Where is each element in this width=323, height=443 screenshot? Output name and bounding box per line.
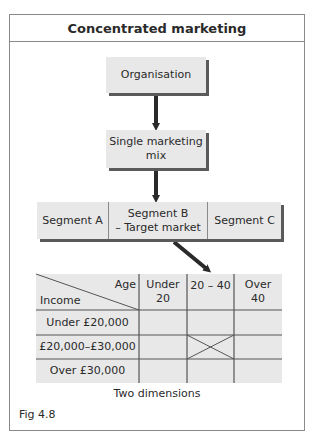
organisation-box: Organisation (106, 57, 206, 93)
col0-line2: 20 (156, 292, 170, 306)
segment-b-sublabel: – Target market (115, 221, 201, 235)
table-caption: Two dimensions (10, 387, 304, 400)
column-header-20-40: 20 – 40 (187, 274, 234, 298)
row-header-under-20000: Under £20,000 (36, 310, 139, 335)
column-header-over-40: Over 40 (234, 274, 282, 310)
column-header-under-20: Under 20 (139, 274, 187, 310)
row-header-over-30000: Over £30,000 (36, 359, 139, 383)
arrow-segment-to-table (174, 242, 208, 270)
col1-line1: 20 – 40 (190, 279, 231, 293)
figure-frame: Concentrated marketing Organisation Sing… (9, 14, 305, 431)
mix-label-line1: Single marketing (109, 135, 202, 149)
col2-line2: 40 (251, 292, 265, 306)
segment-c-label: Segment C (214, 214, 275, 228)
marketing-mix-box: Single marketing mix (106, 130, 206, 168)
segment-a: Segment A (37, 202, 108, 239)
segment-b-target: Segment B – Target market (108, 202, 207, 239)
row-header-20000-30000: £20,000–£30,000 (36, 335, 139, 359)
segmentation-table: Age Income Under 20 20 – 40 Over 40 Unde… (36, 274, 282, 383)
figure-label: Fig 4.8 (19, 408, 56, 421)
segments-row: Segment A Segment B – Target market Segm… (37, 202, 281, 239)
col2-line1: Over (245, 278, 271, 292)
mix-label-line2: mix (146, 149, 166, 163)
segment-c: Segment C (207, 202, 281, 239)
col0-line1: Under (146, 278, 179, 292)
segment-a-label: Segment A (42, 214, 103, 228)
corner-income-label: Income (40, 293, 90, 309)
corner-age-label: Age (96, 277, 136, 293)
segment-b-label: Segment B (128, 207, 189, 221)
organisation-label: Organisation (121, 68, 191, 82)
